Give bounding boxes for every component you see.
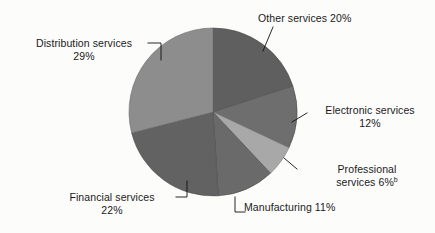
leader-line-professional-services (284, 158, 297, 169)
leader-line-other-services (263, 27, 273, 51)
pie-label-electronic-services-value: 12% (310, 117, 430, 130)
pie-label-professional-services-text: Professional (338, 163, 397, 175)
pie-label-professional-services-footnote: b (394, 175, 398, 182)
pie-label-distribution-services-text: Distribution services (36, 37, 132, 49)
pie-chart-figure: Other services 20% Distribution services… (0, 0, 435, 233)
pie-label-manufacturing-text: Manufacturing 11% (244, 201, 335, 213)
pie-label-electronic-services: Electronic services 12% (310, 104, 430, 129)
pie-slices (129, 28, 297, 196)
pie-label-distribution-services-value: 29% (14, 50, 154, 63)
pie-label-financial-services: Financial services 22% (41, 191, 183, 216)
pie-label-manufacturing: Manufacturing 11% (244, 201, 335, 214)
pie-label-distribution-services: Distribution services 29% (14, 37, 154, 62)
pie-label-electronic-services-text: Electronic services (325, 104, 414, 116)
pie-label-financial-services-text: Financial services (69, 191, 154, 203)
pie-label-other-services-text: Other services 20% (258, 12, 351, 24)
pie-label-professional-services-value: services 6% (336, 176, 394, 188)
pie-label-other-services: Other services 20% (258, 12, 351, 25)
pie-label-professional-services: Professional services 6%b (307, 163, 427, 188)
pie-label-professional-services-value-line: services 6%b (307, 176, 427, 189)
pie-label-financial-services-value: 22% (41, 204, 183, 217)
